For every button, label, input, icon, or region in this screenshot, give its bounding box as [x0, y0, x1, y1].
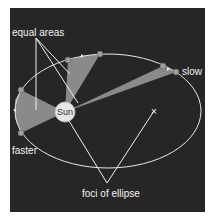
sun-label: Sun [57, 107, 73, 117]
planet [97, 51, 103, 57]
planet [65, 57, 71, 63]
foci-label: foci of ellipse [82, 188, 140, 199]
slow-label: slow [182, 66, 203, 77]
kepler-second-law-diagram: Sun × equal areas slow faster foci of el… [0, 0, 211, 221]
planet [173, 69, 179, 75]
planet [18, 87, 24, 93]
faster-label: faster [12, 145, 38, 156]
empty-focus-marker: × [151, 106, 157, 117]
planet [160, 63, 166, 69]
planet [18, 130, 24, 136]
equal-areas-label: equal areas [12, 27, 64, 38]
